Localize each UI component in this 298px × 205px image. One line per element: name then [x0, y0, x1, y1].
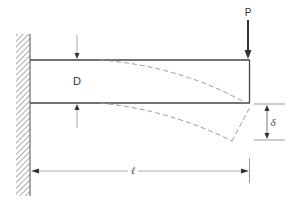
beam-deflected-shape — [100, 60, 250, 141]
length-label: ℓ — [131, 165, 135, 176]
beam-undeformed — [30, 60, 250, 103]
load-label: P — [245, 7, 252, 18]
cantilever-diagram: P D δ ℓ — [0, 0, 298, 205]
fixed-wall-support — [16, 34, 30, 196]
depth-label: D — [73, 75, 81, 87]
load-arrow-p — [245, 20, 252, 59]
deflection-label: δ — [270, 116, 276, 128]
length-dimension — [31, 158, 250, 183]
